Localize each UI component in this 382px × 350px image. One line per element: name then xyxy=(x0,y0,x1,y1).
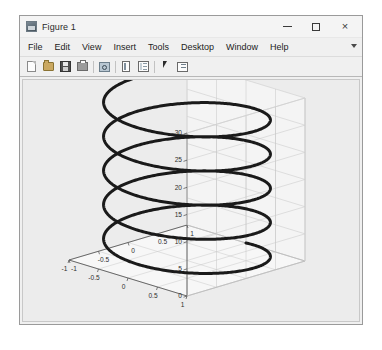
minimize-icon xyxy=(283,26,292,27)
menu-item-view[interactable]: View xyxy=(76,38,107,56)
y-tick-label: 1 xyxy=(181,301,185,308)
z-tick-label: 30 xyxy=(175,129,183,136)
helix-3d-plot[interactable]: 051015202530-1-0.500.51-1-0.500.51 xyxy=(23,80,360,322)
magnifier-icon xyxy=(99,62,110,72)
edit-plot-button[interactable] xyxy=(157,59,173,74)
z-tick-label: 10 xyxy=(175,238,183,245)
x-tick-label: 1 xyxy=(190,230,194,237)
legend-panel-icon xyxy=(138,61,149,72)
x-tick-label: 0.5 xyxy=(158,238,167,245)
z-tick-label: 5 xyxy=(178,265,182,272)
print-figure-button[interactable] xyxy=(74,59,90,74)
insert-legend-button[interactable] xyxy=(135,59,151,74)
menu-item-insert[interactable]: Insert xyxy=(107,38,142,56)
menu-item-help[interactable]: Help xyxy=(264,38,295,56)
save-figure-button[interactable] xyxy=(57,59,73,74)
z-tick-label: 0 xyxy=(178,292,182,299)
z-tick-label: 15 xyxy=(175,211,183,218)
zoom-in-button[interactable] xyxy=(96,59,112,74)
plot-tools-icon xyxy=(177,62,188,72)
figure-window: Figure 1 × File Edit View Insert Tools D… xyxy=(19,15,363,325)
matlab-figure-icon xyxy=(26,21,37,32)
menu-bar: File Edit View Insert Tools Desktop Wind… xyxy=(20,38,362,57)
new-page-icon xyxy=(27,61,36,72)
maximize-icon xyxy=(312,23,320,31)
open-file-button[interactable] xyxy=(40,59,56,74)
close-icon: × xyxy=(342,21,348,32)
menu-item-file[interactable]: File xyxy=(22,38,49,56)
x-tick-label: -0.5 xyxy=(98,256,110,263)
menu-item-window[interactable]: Window xyxy=(220,38,264,56)
colorbar-panel-icon xyxy=(122,61,130,72)
z-tick-label: 25 xyxy=(175,156,183,163)
show-plot-tools-button[interactable] xyxy=(174,59,190,74)
floppy-disk-icon xyxy=(60,61,71,72)
new-figure-button[interactable] xyxy=(23,59,39,74)
arrow-cursor-icon xyxy=(161,61,170,72)
close-button[interactable]: × xyxy=(332,16,358,37)
title-bar[interactable]: Figure 1 × xyxy=(20,16,362,38)
menu-item-tools[interactable]: Tools xyxy=(142,38,175,56)
chevron-down-icon[interactable] xyxy=(351,44,357,48)
maximize-button[interactable] xyxy=(303,16,329,37)
x-tick-label: -1 xyxy=(71,265,77,272)
menu-item-desktop[interactable]: Desktop xyxy=(175,38,220,56)
minimize-button[interactable] xyxy=(274,16,300,37)
printer-icon xyxy=(77,62,88,71)
window-title: Figure 1 xyxy=(42,22,76,32)
figure-canvas[interactable]: 051015202530-1-0.500.51-1-0.500.51 xyxy=(22,79,360,322)
y-tick-label: -0.5 xyxy=(88,274,100,281)
y-tick-label: 0 xyxy=(122,283,126,290)
y-tick-label: -1 xyxy=(62,265,68,272)
insert-colorbar-button[interactable] xyxy=(118,59,134,74)
y-tick-label: 0.5 xyxy=(148,292,157,299)
menu-item-edit[interactable]: Edit xyxy=(49,38,77,56)
toolbar xyxy=(20,57,362,77)
open-folder-icon xyxy=(43,62,54,71)
z-tick-label: 20 xyxy=(175,184,183,191)
x-tick-label: 0 xyxy=(131,247,135,254)
